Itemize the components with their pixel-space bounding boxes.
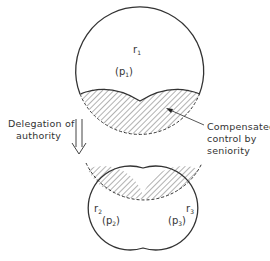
annotation-line2: control by <box>207 133 270 145</box>
role-label-r3: r3 <box>186 203 194 217</box>
compensated-control-annotation: Compensated control by seniority <box>207 121 270 157</box>
delegation-label-line1: Delegation of <box>8 118 74 130</box>
bottom-units-shape <box>60 150 226 250</box>
annotation-line3: seniority <box>207 145 270 157</box>
power-label-p2: (p2) <box>102 215 120 229</box>
hatched-region-bottom <box>60 150 226 199</box>
hatched-region-top <box>70 89 212 140</box>
role-label-r1: r1 <box>133 44 141 58</box>
delegation-label-line2: authority <box>8 130 74 142</box>
diagram-canvas: r1 (p1) r2 (p2) r3 (p3) Delegation of au… <box>0 0 270 261</box>
delegation-label: Delegation of authority <box>8 118 74 142</box>
power-label-p3: (p3) <box>168 215 186 229</box>
annotation-line1: Compensated <box>207 121 270 133</box>
role-label-r2: r2 <box>94 203 102 217</box>
top-unit-circle <box>70 7 212 140</box>
power-label-p1: (p1) <box>115 66 133 80</box>
